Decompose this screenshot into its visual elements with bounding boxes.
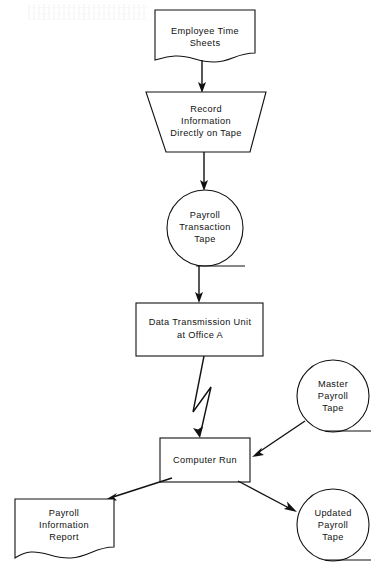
connector-sheets-to-record — [198, 60, 206, 93]
node-label-line: Report — [49, 532, 79, 542]
connector-transmission-to-computer-run — [193, 356, 211, 438]
node-computer-run: Computer Run — [160, 438, 250, 482]
node-label-line: Payroll — [318, 520, 349, 530]
node-master-payroll-tape: Master Payroll Tape — [297, 360, 371, 432]
connector-computer-run-to-updated-tape — [238, 481, 297, 512]
node-label-line: Information — [181, 116, 231, 126]
connector-master-tape-to-computer-run — [252, 421, 305, 457]
connector-computer-run-to-report — [105, 478, 172, 501]
node-payroll-information-report: Payroll Information Report — [15, 499, 114, 558]
node-label-line: Directly on Tape — [170, 128, 241, 138]
node-updated-payroll-tape: Updated Payroll Tape — [297, 489, 371, 561]
node-label-line: Tape — [194, 234, 215, 244]
node-label-line: Tape — [322, 532, 343, 542]
payroll-flowchart-diagram: Employee Time Sheets Record Information … — [0, 0, 376, 573]
node-label-line: Tape — [322, 403, 343, 413]
node-label-line: Employee Time — [171, 26, 239, 36]
node-employee-time-sheets: Employee Time Sheets — [155, 10, 255, 62]
connector-record-to-transaction-tape — [200, 152, 208, 191]
node-label-line: Transaction — [179, 222, 231, 232]
node-label-line: Master — [318, 379, 348, 389]
lightning-zigzag-line — [193, 356, 211, 431]
node-label-line: Information — [39, 520, 89, 530]
node-label-line: Payroll — [190, 210, 221, 220]
node-label-line: Sheets — [190, 38, 221, 48]
node-record-information: Record Information Directly on Tape — [146, 92, 266, 152]
node-label-line: Data Transmission Unit — [149, 317, 252, 327]
node-label-line: Payroll — [49, 508, 80, 518]
node-label-line: at Office A — [177, 330, 224, 340]
node-label-line: Computer Run — [173, 455, 237, 465]
node-label-line: Updated — [314, 508, 351, 518]
node-label-line: Payroll — [318, 391, 349, 401]
node-data-transmission-unit: Data Transmission Unit at Office A — [136, 303, 263, 356]
node-payroll-transaction-tape: Payroll Transaction Tape — [167, 190, 245, 266]
node-label-line: Record — [190, 104, 222, 114]
connector-transaction-tape-to-transmission — [195, 266, 203, 303]
